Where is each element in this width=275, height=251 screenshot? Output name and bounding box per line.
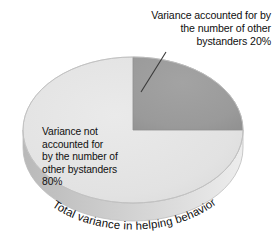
variance-accounted-label: Variance accounted for by the number of …	[109, 9, 271, 48]
variance-not-accounted-label: Variance not accounted for by the number…	[42, 126, 150, 189]
pie-chart-figure: Total variance in helping behavior Varia…	[0, 0, 275, 251]
pie-slice-variance-accounted[interactable]	[133, 57, 243, 130]
